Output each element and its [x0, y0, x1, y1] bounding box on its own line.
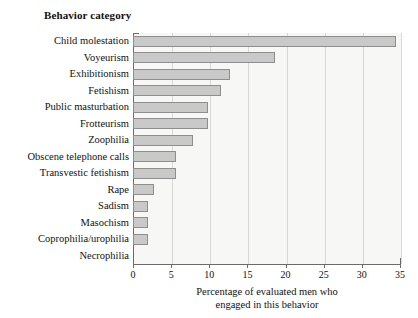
x-tick-label-25: 25	[312, 269, 336, 280]
x-tick-mark-5	[171, 264, 172, 268]
x-tick-label-15: 15	[235, 269, 259, 280]
x-tick-mark-10	[209, 264, 210, 268]
x-tick-mark-20	[286, 264, 287, 268]
bar-row: Sadism	[0, 198, 418, 215]
category-label: Child molestation	[54, 33, 129, 50]
bar	[133, 151, 176, 162]
bar-row: Fetishism	[0, 83, 418, 100]
bar-row: Necrophilia	[0, 248, 418, 265]
x-tick-label-10: 10	[197, 269, 221, 280]
x-tick-mark-35	[400, 264, 401, 268]
bar	[133, 118, 208, 129]
x-axis-title-line-2: engaged in this behavior	[133, 298, 401, 311]
x-axis-line	[133, 264, 401, 265]
x-tick-mark-30	[362, 264, 363, 268]
bar-chart-figure: Behavior category 05101520253035 Child m…	[0, 0, 418, 318]
bar-row: Masochism	[0, 215, 418, 232]
category-label: Sadism	[98, 198, 129, 215]
category-label: Transvestic fetishism	[40, 165, 129, 182]
x-tick-label-30: 30	[350, 269, 374, 280]
bar-row: Exhibitionism	[0, 66, 418, 83]
x-tick-mark-15	[247, 264, 248, 268]
bar-row: Transvestic fetishism	[0, 165, 418, 182]
bar	[133, 52, 275, 63]
bar	[133, 102, 208, 113]
bar	[133, 234, 148, 245]
x-axis-title: Percentage of evaluated men who engaged …	[133, 285, 401, 311]
bar	[133, 135, 193, 146]
x-tick-label-35: 35	[388, 269, 412, 280]
x-tick-label-20: 20	[274, 269, 298, 280]
bar	[133, 184, 154, 195]
bar	[133, 36, 396, 47]
category-label: Obscene telephone calls	[28, 149, 129, 166]
x-tick-mark-0	[133, 264, 134, 268]
bar-row: Obscene telephone calls	[0, 149, 418, 166]
bar-row: Zoophilia	[0, 132, 418, 149]
bar	[133, 85, 221, 96]
category-label: Fetishism	[88, 83, 129, 100]
x-axis-title-line-1: Percentage of evaluated men who	[133, 285, 401, 298]
bar	[133, 201, 148, 212]
bar	[133, 168, 176, 179]
x-tick-mark-25	[324, 264, 325, 268]
bar-row: Frotteurism	[0, 116, 418, 133]
bar	[133, 69, 230, 80]
category-label: Exhibitionism	[69, 66, 129, 83]
x-tick-label-0: 0	[121, 269, 145, 280]
category-label: Masochism	[81, 215, 129, 232]
category-label: Public masturbation	[45, 99, 129, 116]
bar-row: Child molestation	[0, 33, 418, 50]
category-label: Zoophilia	[88, 132, 129, 149]
bar	[133, 217, 148, 228]
category-label: Voyeurism	[84, 50, 129, 67]
bar-row: Voyeurism	[0, 50, 418, 67]
x-tick-label-5: 5	[159, 269, 183, 280]
y-axis-title: Behavior category	[44, 9, 131, 21]
bar-row: Public masturbation	[0, 99, 418, 116]
category-label: Necrophilia	[79, 248, 129, 265]
category-label: Frotteurism	[80, 116, 129, 133]
category-label: Coprophilia/urophilia	[38, 231, 129, 248]
bar-row: Rape	[0, 182, 418, 199]
category-label: Rape	[107, 182, 129, 199]
bar-row: Coprophilia/urophilia	[0, 231, 418, 248]
